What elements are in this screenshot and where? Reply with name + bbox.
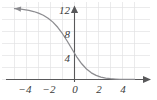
chart-figure: 12 8 4 −4 −2 0 2 4 bbox=[0, 0, 157, 100]
x-axis-arrowhead-right-icon bbox=[143, 76, 151, 83]
x-tick-label-neg2: −2 bbox=[40, 84, 58, 95]
x-tick-label-0: 0 bbox=[66, 84, 84, 95]
x-tick-label-neg4: −4 bbox=[16, 84, 34, 95]
x-tick-label-2: 2 bbox=[90, 84, 108, 95]
y-tick-label-4: 4 bbox=[54, 53, 70, 64]
y-tick-label-12: 12 bbox=[54, 5, 70, 16]
y-tick-label-8: 8 bbox=[54, 29, 70, 40]
y-axis-arrowhead-up-icon bbox=[71, 6, 78, 14]
grid-lines-horizontal bbox=[2, 8, 150, 80]
x-tick-label-4: 4 bbox=[114, 84, 132, 95]
